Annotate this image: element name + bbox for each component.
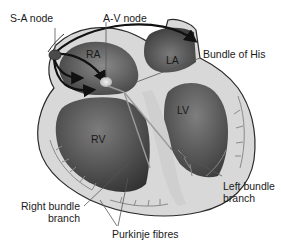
- chamber-label-rv: RV: [91, 133, 105, 145]
- label-left-bundle-line1: Left bundle: [223, 180, 275, 192]
- chamber-label-ra: RA: [86, 48, 101, 60]
- label-av-node: A-V node: [103, 12, 147, 24]
- label-left-bundle-line2: branch: [223, 192, 275, 204]
- label-right-bundle-line1: Right bundle: [18, 200, 80, 212]
- label-left-bundle-branch: Left bundle branch: [223, 180, 275, 204]
- heart-conduction-diagram: S-A node A-V node Bundle of His Right bu…: [0, 0, 281, 246]
- label-sa-node: S-A node: [10, 12, 53, 24]
- chamber-label-lv: LV: [177, 104, 189, 116]
- av-node: [100, 77, 112, 87]
- label-bundle-of-his: Bundle of His: [203, 48, 265, 60]
- chamber-label-la: LA: [166, 54, 179, 66]
- label-purkinje-fibres: Purkinje fibres: [112, 228, 179, 240]
- label-right-bundle-line2: branch: [18, 212, 80, 224]
- sa-node: [49, 50, 61, 60]
- label-right-bundle-branch: Right bundle branch: [18, 200, 80, 224]
